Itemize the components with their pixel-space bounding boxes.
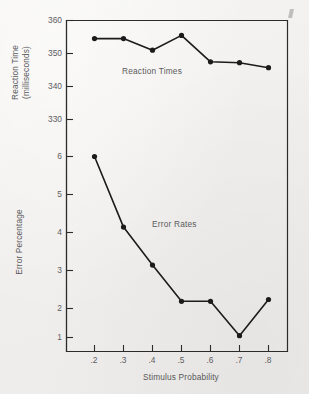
- xtick-label-6: .8: [259, 355, 277, 365]
- xtick-label-2: .4: [143, 355, 161, 365]
- y-axis-title-line2: (milliseconds): [20, 23, 31, 123]
- series-annotation-error-rates: Error Rates: [152, 219, 197, 229]
- ytick-label-err-6: 6: [42, 151, 62, 161]
- data-point: [237, 60, 242, 65]
- ytick-label-rt-330: 330: [34, 114, 62, 124]
- data-point: [237, 333, 242, 338]
- series-error-rates: [92, 154, 271, 338]
- xtick-label-3: .5: [172, 355, 190, 365]
- ytick-label-err-4: 4: [42, 227, 62, 237]
- x-axis-title: Stimulus Probability: [96, 372, 266, 382]
- ytick-label-err-5: 5: [42, 189, 62, 199]
- ytick-label-rt-340: 340: [34, 81, 62, 91]
- data-point: [266, 65, 271, 70]
- ytick-label-err-3: 3: [42, 265, 62, 275]
- y-axis-title-error-percentage: Error Percentage: [14, 199, 24, 285]
- xtick-label-5: .7: [230, 355, 248, 365]
- y-axis-title-reaction-time: Reaction Time (milliseconds): [10, 23, 31, 123]
- data-point: [121, 225, 126, 230]
- data-point: [150, 263, 155, 268]
- ytick-label-err-2: 2: [42, 303, 62, 313]
- figure-container: 360 350 340 330 6 5 4 3 2 1 .2 .3 .4 .5 …: [0, 0, 309, 394]
- data-point: [208, 299, 213, 304]
- data-point: [179, 299, 184, 304]
- data-point: [179, 33, 184, 38]
- data-point: [150, 48, 155, 53]
- ytick-label-rt-360: 360: [34, 15, 62, 25]
- y-axis-title-line1: Reaction Time: [10, 23, 21, 123]
- data-point: [121, 36, 126, 41]
- data-point: [92, 154, 97, 159]
- xtick-label-4: .6: [201, 355, 219, 365]
- ytick-label-err-1: 1: [42, 332, 62, 342]
- data-point: [266, 297, 271, 302]
- data-point: [92, 36, 97, 41]
- data-point: [208, 59, 213, 64]
- xtick-label-0: .2: [85, 355, 103, 365]
- series-reaction-times: [92, 33, 271, 70]
- xtick-label-1: .3: [114, 355, 132, 365]
- ytick-label-rt-350: 350: [34, 48, 62, 58]
- series-annotation-reaction-times: Reaction Times: [122, 66, 182, 76]
